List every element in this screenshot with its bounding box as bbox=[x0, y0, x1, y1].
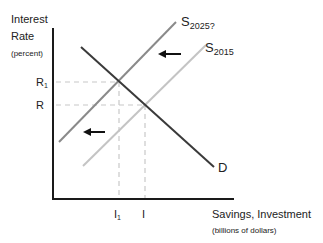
supply-2025-label: S2025? bbox=[181, 14, 215, 31]
demand-label: D bbox=[218, 160, 227, 175]
supply-demand-diagram: Interest Rate (percent) R1 R I1 I Saving… bbox=[0, 0, 323, 243]
y-axis-title-line2: Rate bbox=[11, 30, 34, 42]
y-tick-r1: R1 bbox=[36, 76, 48, 89]
y-axis-unit: (percent) bbox=[11, 49, 43, 58]
shift-arrow-upper bbox=[158, 50, 181, 58]
x-tick-i: I bbox=[142, 208, 145, 220]
supply-2015-label: S2015 bbox=[205, 40, 234, 57]
x-tick-i1: I1 bbox=[114, 208, 121, 221]
x-axis-unit: (billions of dollars) bbox=[212, 226, 277, 235]
y-tick-r: R bbox=[36, 99, 44, 111]
x-axis-title: Savings, Investment bbox=[212, 208, 311, 220]
shift-arrow-lower bbox=[83, 128, 105, 136]
y-axis-title-line1: Interest bbox=[11, 13, 48, 25]
